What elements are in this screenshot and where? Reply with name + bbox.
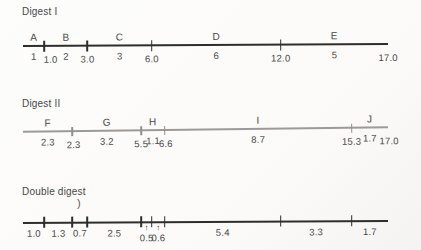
fragment-size-label: 1	[31, 51, 37, 62]
cut-tick	[140, 216, 142, 227]
fragment-letter: F	[44, 117, 50, 128]
fragment-size-label: 2	[63, 51, 69, 62]
position-label: 5.5	[134, 138, 148, 149]
up-arrow-icon: ↑	[144, 224, 148, 232]
cut-tick	[351, 215, 353, 226]
position-label: 17.0	[379, 135, 398, 146]
digest-2-line	[23, 127, 388, 133]
position-label: 2.3	[67, 139, 81, 150]
position-label: 12.0	[271, 52, 290, 63]
fragment-letter: I	[256, 115, 259, 126]
fragment-size-label: 3.3	[309, 226, 323, 237]
fragment-letter: E	[331, 30, 338, 41]
fragment-size-label: 6	[214, 50, 220, 61]
digest-1-band: A1B2C3D6E51.03.06.012.017.0	[0, 24, 421, 66]
position-label: 6.6	[159, 138, 173, 149]
cut-tick	[140, 126, 142, 135]
cut-tick	[72, 127, 74, 136]
fragment-size-label: 1.7	[363, 226, 377, 237]
digest-1-title: Digest I	[22, 6, 58, 17]
position-label: 6.0	[145, 53, 159, 64]
fragment-size-label: 1.3	[52, 228, 66, 239]
fragment-size-label: 5	[332, 49, 338, 60]
cut-tick	[151, 40, 153, 51]
double-digest-title: Double digest	[22, 186, 86, 197]
fragment-letter: A	[30, 32, 37, 43]
fragment-size-label: 0.7	[73, 228, 87, 239]
fragment-letter: G	[103, 117, 111, 128]
digest-1-line	[23, 43, 388, 47]
position-label: 17.0	[378, 52, 397, 63]
double-digest-band: 1.01.30.72.50.5↑0.6↑5.43.31.7	[0, 201, 421, 243]
fragment-letter: H	[149, 116, 157, 127]
cut-tick	[87, 40, 89, 51]
fragment-letter: J	[367, 113, 372, 124]
stray-paren-mark: )	[77, 197, 81, 209]
fragment-letter: C	[116, 31, 123, 42]
cut-tick	[280, 216, 282, 227]
position-label: 1.0	[44, 54, 58, 65]
up-arrow-icon: ↑	[156, 224, 160, 232]
double-digest-line	[23, 220, 388, 224]
fragment-size-label: 1.7	[363, 132, 377, 143]
fragment-size-label: 5.4	[216, 227, 230, 238]
cut-tick	[164, 216, 166, 227]
cut-tick	[44, 217, 46, 228]
cut-tick	[280, 39, 282, 50]
cut-tick	[164, 125, 166, 134]
restriction-map-figure: Digest IA1B2C3D6E51.03.06.012.017.0Diges…	[0, 0, 421, 250]
cut-tick	[87, 217, 89, 228]
fragment-letter: B	[62, 32, 69, 43]
fragment-size-label: 0.6	[151, 232, 165, 243]
cut-tick	[72, 217, 74, 228]
digest-2-band: F2.3G3.2H1.1I8.7J1.72.35.56.615.317.0	[0, 107, 421, 152]
position-label: 15.3	[342, 136, 361, 147]
digest-2-title: Digest II	[22, 98, 60, 109]
fragment-size-label: 1.0	[27, 228, 41, 239]
fragment-letter: D	[212, 31, 219, 42]
cut-tick	[151, 216, 153, 227]
fragment-size-label: 8.7	[251, 134, 265, 145]
cut-tick	[351, 123, 353, 132]
position-label: 3.0	[81, 54, 95, 65]
fragment-size-label: 2.5	[107, 227, 121, 238]
cut-tick	[44, 40, 46, 51]
fragment-size-label: 3	[117, 50, 123, 61]
fragment-size-label: 2.3	[41, 136, 55, 147]
fragment-size-label: 3.2	[100, 136, 114, 147]
